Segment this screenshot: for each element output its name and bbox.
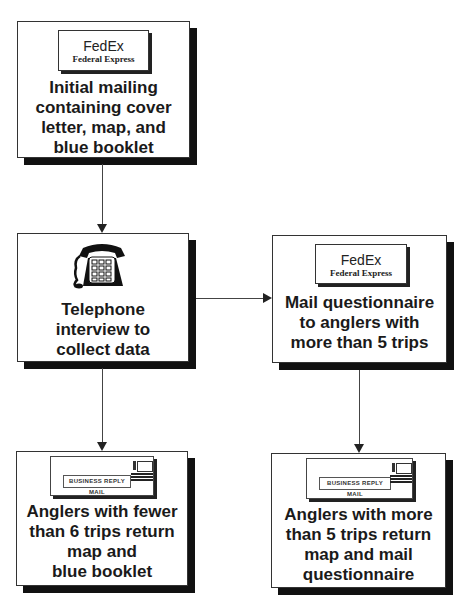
label-line: to anglers with [273, 313, 446, 333]
business-reply-mail-label: BUSINESS REPLY MAIL [319, 477, 391, 490]
business-reply-envelope-icon: BUSINESS REPLY MAIL [306, 458, 413, 499]
node-more-than-5-return: BUSINESS REPLY MAIL Anglers with more th… [271, 453, 446, 588]
label-line: Anglers with more [272, 505, 445, 525]
label-line: Mail questionnaire [273, 293, 446, 313]
connector-line [102, 368, 103, 442]
arrow-down-icon [97, 224, 107, 233]
fedex-logo: FedEx [59, 39, 148, 54]
business-reply-mail-label: BUSINESS REPLY MAIL [63, 475, 131, 488]
label-line: more than 5 trips [273, 333, 446, 353]
node-label: Anglers with fewer than 6 trips return m… [17, 502, 187, 582]
stamp-box [137, 461, 153, 472]
postal-lines-icon [131, 473, 153, 482]
connector-line [102, 164, 103, 224]
node-fewer-than-6-return: BUSINESS REPLY MAIL Anglers with fewer t… [16, 451, 188, 586]
arrow-down-icon [97, 442, 107, 451]
node-label: Anglers with more than 5 trips return ma… [272, 505, 445, 585]
label-line: collect data [18, 340, 188, 360]
label-line: blue booklet [17, 562, 187, 582]
label-line: map and mail [272, 545, 445, 565]
fedex-label-icon: FedEx Federal Express [315, 244, 407, 284]
node-label: Initial mailing containing cover letter,… [18, 78, 189, 158]
node-mail-questionnaire: FedEx Federal Express Mail questionnaire… [272, 235, 447, 363]
label-line: interview to [18, 320, 188, 340]
connector-line [359, 370, 360, 444]
connector-line [196, 298, 263, 299]
fedex-logo: FedEx [316, 253, 406, 268]
postal-lines-icon [390, 475, 412, 484]
telephone-icon [71, 242, 133, 290]
arrow-right-icon [263, 293, 272, 303]
fedex-subtitle: Federal Express [59, 54, 148, 64]
stamp-box [396, 463, 412, 474]
stamp-icon [392, 463, 395, 472]
node-label: Mail questionnaire to anglers with more … [273, 293, 446, 353]
label-line: than 5 trips return [272, 525, 445, 545]
stamp-icon [133, 461, 136, 470]
label-line: letter, map, and [18, 118, 189, 138]
node-label: Telephone interview to collect data [18, 300, 188, 360]
label-line: blue booklet [18, 138, 189, 158]
fedex-label-icon: FedEx Federal Express [58, 30, 149, 71]
label-line: map and [17, 542, 187, 562]
label-line: than 6 trips return [17, 522, 187, 542]
label-line: Anglers with fewer [17, 502, 187, 522]
label-line: questionnaire [272, 565, 445, 585]
node-initial-mailing: FedEx Federal Express Initial mailing co… [17, 21, 190, 158]
arrow-down-icon [354, 444, 364, 453]
node-telephone-interview: Telephone interview to collect data [17, 233, 189, 362]
business-reply-envelope-icon: BUSINESS REPLY MAIL [50, 456, 154, 496]
fedex-subtitle: Federal Express [316, 268, 406, 278]
label-line: Initial mailing [18, 78, 189, 98]
label-line: Telephone [18, 300, 188, 320]
label-line: containing cover [18, 98, 189, 118]
